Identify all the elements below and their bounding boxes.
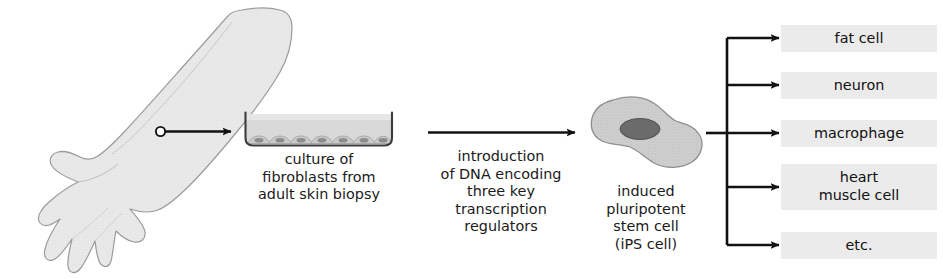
outcome-box-fat-cell: fat cell [781,25,937,52]
nucleus [297,138,306,143]
ips-cell-reprogramming-diagram: culture of fibroblasts from adult skin b… [0,0,943,279]
differentiation-branch-arrows [706,38,779,245]
outcome-box-macrophage: macrophage [781,120,937,147]
culture-dish [246,113,393,146]
dish-medium-surface-highlight [246,114,393,120]
ips-cell [591,97,702,167]
nucleus [255,138,264,143]
nucleus [379,138,388,143]
nucleus [339,138,348,143]
biopsy-site-marker [156,127,165,136]
nucleus [318,138,327,143]
transduction-caption: introduction of DNA encoding three key t… [408,148,594,236]
outcome-box-heart-muscle-cell: heart muscle cell [781,164,937,210]
ips-cell-caption: induced pluripotent stem cell (iPS cell) [582,183,710,253]
nucleus [360,138,369,143]
nucleus [276,138,285,143]
outcome-box-neuron: neuron [781,72,937,99]
culture-dish-caption: culture of fibroblasts from adult skin b… [231,151,407,204]
outcome-box-etc: etc. [781,232,937,259]
ips-cell-nucleus [620,119,660,140]
